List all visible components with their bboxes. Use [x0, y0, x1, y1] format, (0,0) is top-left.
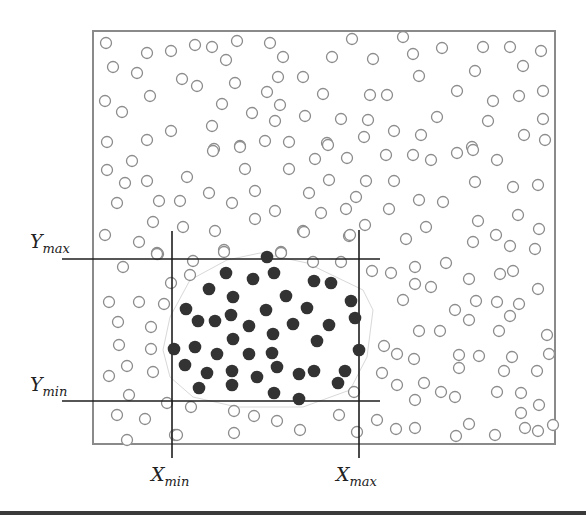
- open-point: [270, 206, 281, 217]
- open-point: [389, 176, 400, 187]
- open-point: [452, 148, 463, 159]
- open-point: [363, 115, 374, 126]
- open-point: [275, 100, 286, 111]
- open-point: [474, 351, 485, 362]
- open-point: [468, 237, 479, 248]
- open-point: [494, 326, 505, 337]
- open-point: [250, 214, 261, 225]
- open-point: [416, 130, 427, 141]
- selected-point: [339, 365, 352, 378]
- y-min-sub: min: [43, 384, 68, 399]
- open-point: [533, 180, 544, 191]
- open-point: [377, 368, 388, 379]
- open-point: [250, 186, 261, 197]
- open-point: [113, 317, 124, 328]
- open-point: [134, 237, 145, 248]
- open-point: [464, 274, 475, 285]
- open-point: [118, 262, 129, 273]
- open-point: [367, 266, 378, 277]
- open-point: [392, 349, 403, 360]
- open-point: [513, 210, 524, 221]
- open-point: [505, 241, 516, 252]
- selected-points-group: [168, 251, 366, 406]
- selected-point: [243, 320, 256, 333]
- selected-point: [180, 303, 193, 316]
- open-point: [104, 371, 115, 382]
- open-point: [114, 340, 125, 351]
- open-point: [227, 198, 238, 209]
- open-point: [166, 46, 177, 57]
- x-max-label: Xmax: [336, 465, 377, 488]
- y-max-base: Y: [30, 230, 43, 252]
- selected-point: [226, 379, 239, 392]
- open-point: [365, 90, 376, 101]
- open-point: [464, 419, 475, 430]
- open-point: [172, 430, 183, 441]
- open-point: [177, 74, 188, 85]
- open-point: [519, 130, 530, 141]
- open-point: [208, 146, 219, 157]
- open-point: [265, 38, 276, 49]
- open-point: [117, 107, 128, 118]
- open-point: [104, 297, 115, 308]
- open-point: [548, 420, 559, 431]
- open-point: [514, 299, 525, 310]
- selected-point: [323, 319, 336, 332]
- selected-point: [261, 251, 274, 264]
- selected-point: [209, 315, 222, 328]
- open-point: [414, 195, 425, 206]
- open-point: [505, 42, 516, 53]
- open-point: [175, 196, 186, 207]
- open-point: [334, 410, 345, 421]
- open-point: [540, 135, 551, 146]
- open-point: [352, 427, 363, 438]
- selected-point: [332, 377, 345, 390]
- open-point: [299, 227, 310, 238]
- open-point: [516, 388, 527, 399]
- selected-point: [308, 365, 321, 378]
- selected-point: [243, 348, 256, 361]
- open-point: [235, 142, 246, 153]
- open-point: [219, 247, 230, 258]
- selected-point: [280, 290, 293, 303]
- open-point: [186, 402, 197, 413]
- open-point: [414, 71, 425, 82]
- open-point: [410, 423, 421, 434]
- open-point: [359, 132, 370, 143]
- open-point: [514, 91, 525, 102]
- open-point: [533, 426, 544, 437]
- open-point: [210, 226, 221, 237]
- open-point: [532, 366, 543, 377]
- selected-point: [201, 367, 214, 380]
- open-point: [441, 258, 452, 269]
- open-point: [217, 99, 228, 110]
- open-point: [142, 176, 153, 187]
- open-point: [410, 262, 421, 273]
- open-point: [120, 178, 131, 189]
- open-point: [381, 150, 392, 161]
- open-point: [148, 367, 159, 378]
- open-point: [398, 295, 409, 306]
- selected-point: [260, 304, 273, 317]
- selected-point: [325, 277, 338, 290]
- open-point: [398, 32, 409, 43]
- selected-point: [225, 309, 238, 322]
- x-min-sub: min: [165, 474, 190, 489]
- open-point: [249, 411, 260, 422]
- open-point: [345, 230, 356, 241]
- open-point: [464, 315, 475, 326]
- open-point: [154, 196, 165, 207]
- y-min-label: Ymin: [30, 375, 67, 398]
- open-point: [468, 145, 479, 156]
- open-point: [298, 72, 309, 83]
- selected-point: [349, 312, 362, 325]
- point-cloud-diagram: [0, 0, 586, 515]
- selected-point: [293, 393, 306, 406]
- selected-point: [308, 275, 321, 288]
- selected-point: [179, 359, 192, 372]
- open-point: [323, 140, 334, 151]
- selected-point: [267, 328, 280, 341]
- open-point: [426, 282, 437, 293]
- selected-point: [189, 341, 202, 354]
- open-point: [336, 257, 347, 268]
